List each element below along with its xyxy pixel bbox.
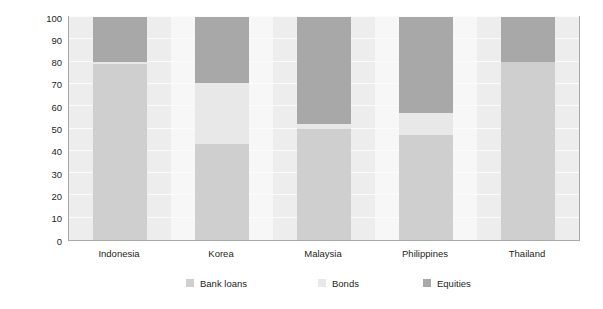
- y-tick-60: 60: [36, 103, 62, 113]
- x-tick-philippines: Philippines: [374, 248, 476, 259]
- bar-segment-bank-loans[interactable]: [297, 129, 351, 241]
- bar-segment-bank-loans[interactable]: [501, 62, 555, 240]
- bar-malaysia[interactable]: [297, 17, 351, 240]
- bar-indonesia[interactable]: [93, 17, 147, 240]
- bar-segment-equities[interactable]: [399, 17, 453, 113]
- y-tick-30: 30: [36, 170, 62, 180]
- legend-item-equities[interactable]: Equities: [423, 276, 471, 290]
- x-axis-tick-labels: IndonesiaKoreaMalaysiaPhilippinesThailan…: [68, 248, 580, 264]
- x-tick-indonesia: Indonesia: [68, 248, 170, 259]
- bar-segment-bank-loans[interactable]: [93, 64, 147, 240]
- legend-swatch-icon: [186, 279, 194, 287]
- bar-segment-equities[interactable]: [93, 17, 147, 62]
- bar-segment-bank-loans[interactable]: [399, 135, 453, 240]
- bar-segment-bonds[interactable]: [93, 62, 147, 64]
- legend-label: Bank loans: [200, 278, 247, 289]
- x-tick-korea: Korea: [170, 248, 272, 259]
- y-tick-40: 40: [36, 147, 62, 157]
- legend-label: Bonds: [332, 278, 359, 289]
- bar-segment-bonds[interactable]: [297, 124, 351, 128]
- y-tick-90: 90: [36, 36, 62, 46]
- bar-segment-equities[interactable]: [195, 17, 249, 83]
- legend-swatch-icon: [423, 279, 431, 287]
- bar-korea[interactable]: [195, 17, 249, 240]
- bar-segment-bonds[interactable]: [399, 113, 453, 135]
- legend-swatch-icon: [318, 279, 326, 287]
- x-tick-thailand: Thailand: [476, 248, 578, 259]
- x-tick-malaysia: Malaysia: [272, 248, 374, 259]
- bar-segment-equities[interactable]: [297, 17, 351, 124]
- y-tick-50: 50: [36, 125, 62, 135]
- bar-thailand[interactable]: [501, 17, 555, 240]
- y-tick-0: 0: [36, 237, 62, 247]
- y-tick-10: 10: [36, 214, 62, 224]
- bar-segment-equities[interactable]: [501, 17, 555, 62]
- bar-philippines[interactable]: [399, 17, 453, 240]
- bar-segment-bonds[interactable]: [195, 83, 249, 144]
- plot-area: [68, 16, 580, 241]
- y-tick-100: 100: [36, 14, 62, 24]
- legend-item-bank-loans[interactable]: Bank loans: [186, 276, 247, 290]
- chart-legend: Bank loansBondsEquities: [68, 276, 580, 292]
- legend-item-bonds[interactable]: Bonds: [318, 276, 359, 290]
- y-axis-tick-labels: 0102030405060708090100: [36, 16, 62, 241]
- stacked-bar-chart: Percent Share 0102030405060708090100 Ind…: [0, 0, 603, 309]
- bar-segment-bank-loans[interactable]: [195, 144, 249, 240]
- y-tick-20: 20: [36, 192, 62, 202]
- y-tick-80: 80: [36, 58, 62, 68]
- legend-label: Equities: [437, 278, 471, 289]
- y-tick-70: 70: [36, 80, 62, 90]
